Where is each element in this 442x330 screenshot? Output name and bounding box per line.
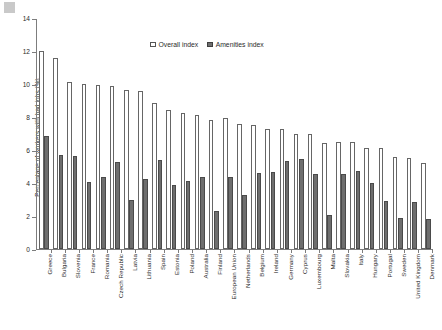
x-axis-category-label: Poland: [185, 254, 192, 274]
x-axis-category-label: Malta: [326, 254, 333, 269]
bar-amenities-index: [87, 182, 92, 249]
x-axis-tick-mark: [333, 249, 334, 253]
x-axis-tick-mark: [135, 249, 136, 253]
bar-group: [306, 19, 320, 249]
bar-group: [263, 19, 277, 249]
bar-group: [277, 19, 291, 249]
bar-group: [150, 19, 164, 249]
bar-overall-index: [96, 85, 101, 249]
x-axis-tick-mark: [220, 249, 221, 253]
x-axis-tick-mark: [79, 249, 80, 253]
x-axis-category-label: Denmark: [425, 254, 432, 279]
x-axis-category-label: Estonia: [170, 254, 177, 275]
bar-overall-index: [53, 58, 58, 249]
bar-overall-index: [407, 158, 412, 249]
bar-group: [320, 19, 334, 249]
bar-amenities-index: [44, 136, 49, 249]
bar-group: [108, 19, 122, 249]
bar-amenities-index: [242, 195, 247, 249]
x-axis-category-label: Bulgaria: [57, 254, 64, 277]
bar-overall-index: [322, 143, 327, 249]
x-axis-tick-mark: [150, 249, 151, 253]
x-axis-tick-mark: [249, 249, 250, 253]
bar-amenities-index: [73, 156, 78, 249]
bar-overall-index: [181, 113, 186, 249]
x-axis-tick-mark: [291, 249, 292, 253]
bars-layer: [37, 19, 432, 249]
bar-amenities-index: [356, 171, 361, 249]
x-axis-category-label: Hungary: [368, 254, 375, 278]
bar-overall-index: [364, 148, 369, 249]
bar-overall-index: [265, 129, 270, 249]
x-axis-tick-mark: [263, 249, 264, 253]
bar-group: [51, 19, 65, 249]
x-axis-tick-mark: [206, 249, 207, 253]
bar-group: [362, 19, 376, 249]
bar-group: [79, 19, 93, 249]
bar-amenities-index: [271, 172, 276, 249]
x-axis-tick-mark: [234, 249, 235, 253]
x-axis-category-label: Italy: [354, 254, 361, 266]
y-axis-tick-mark: [32, 250, 36, 251]
bar-amenities-index: [228, 177, 233, 249]
x-axis-tick-mark: [277, 249, 278, 253]
legend-swatch-open: [150, 42, 156, 48]
legend-entry-amenities-index: Amenities index: [207, 41, 263, 48]
bar-amenities-index: [115, 162, 120, 249]
bar-overall-index: [280, 129, 285, 249]
x-axis-tick-mark: [418, 249, 419, 253]
bar-overall-index: [39, 51, 44, 249]
x-axis-category-label: France: [86, 254, 93, 274]
bar-amenities-index: [143, 179, 148, 249]
bar-overall-index: [294, 134, 299, 250]
bar-group: [376, 19, 390, 249]
bar-overall-index: [195, 115, 200, 249]
bar-amenities-index: [426, 219, 431, 249]
bar-amenities-index: [101, 177, 106, 249]
x-axis-tick-mark: [376, 249, 377, 253]
x-axis-tick-mark: [348, 249, 349, 253]
x-axis-category-label: Lithuania: [142, 254, 149, 280]
bar-overall-index: [110, 86, 115, 249]
y-axis-tick-mark: [32, 118, 36, 119]
bar-amenities-index: [299, 159, 304, 249]
x-axis-category-label: Cyprus: [298, 254, 305, 274]
bar-chart-figure: Percentage of workers with bad jobs (%) …: [0, 0, 442, 330]
bar-overall-index: [166, 110, 171, 249]
legend-label: Amenities index: [216, 41, 264, 48]
bar-amenities-index: [341, 174, 346, 249]
legend-swatch-filled: [207, 42, 213, 48]
x-axis-category-label: Portugal: [383, 254, 390, 277]
bar-group: [37, 19, 51, 249]
bar-amenities-index: [186, 181, 191, 249]
x-axis-category-label: Australia: [199, 254, 206, 279]
y-axis-tick-label: 8: [6, 114, 30, 121]
bar-amenities-index: [129, 200, 134, 249]
y-axis-tick-label: 2: [6, 213, 30, 220]
bar-amenities-index: [257, 173, 262, 249]
bar-group: [419, 19, 433, 249]
bar-amenities-index: [285, 161, 290, 249]
x-axis-category-label: Germany: [284, 254, 291, 280]
bar-group: [235, 19, 249, 249]
bar-overall-index: [421, 163, 426, 249]
x-axis-category-label: Latvia: [128, 254, 135, 271]
x-axis-tick-mark: [93, 249, 94, 253]
x-axis-category-label: Belgium: [255, 254, 262, 277]
y-axis-tick-mark: [32, 19, 36, 20]
y-axis-tick-label: 4: [6, 180, 30, 187]
bar-overall-index: [237, 124, 242, 249]
bar-group: [405, 19, 419, 249]
bar-overall-index: [138, 91, 143, 249]
bar-overall-index: [67, 82, 72, 249]
y-axis-tick-mark: [32, 217, 36, 218]
bar-group: [136, 19, 150, 249]
y-axis-tick-mark: [32, 52, 36, 53]
bar-overall-index: [336, 142, 341, 249]
bar-overall-index: [251, 125, 256, 249]
bar-group: [94, 19, 108, 249]
x-axis-category-label: Sweden: [397, 254, 404, 277]
legend-entry-overall-index: Overall index: [150, 41, 198, 48]
y-axis-tick-mark: [32, 151, 36, 152]
bar-group: [178, 19, 192, 249]
